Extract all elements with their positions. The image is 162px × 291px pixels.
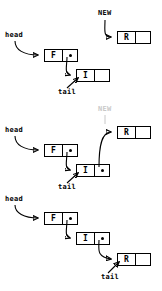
stage3-node-f: F bbox=[44, 212, 78, 225]
stage2-node-i-value: I bbox=[77, 165, 94, 176]
stage1-node-r: R bbox=[117, 31, 151, 44]
stage2-node-i-pointer-cell bbox=[94, 165, 109, 176]
stage1-node-i-pointer-cell bbox=[94, 70, 109, 81]
stage3-node-i: I bbox=[76, 232, 110, 245]
stage2-node-r: R bbox=[117, 126, 151, 139]
stage2-node-f-value: F bbox=[45, 145, 62, 156]
stage3-node-r-value: R bbox=[118, 254, 135, 265]
stage2-tail-label: tail bbox=[58, 184, 76, 191]
stage1-head-label: head bbox=[5, 32, 23, 39]
stage2-head-label: head bbox=[5, 127, 23, 134]
stage2-node-r-pointer-cell bbox=[135, 127, 150, 138]
stage2-node-i: I bbox=[76, 164, 110, 177]
stage2-new-label: NEW bbox=[98, 106, 112, 113]
stage1-node-r-value: R bbox=[118, 32, 135, 43]
stage3-node-i-pointer-cell bbox=[94, 233, 109, 244]
stage1-new-label: NEW bbox=[98, 10, 112, 17]
stage3-node-f-value: F bbox=[45, 213, 62, 224]
stage3-node-r: R bbox=[117, 253, 151, 266]
stage2-node-f-pointer-cell bbox=[62, 145, 77, 156]
stage2-node-r-value: R bbox=[118, 127, 135, 138]
stage3-node-i-value: I bbox=[77, 233, 94, 244]
stage1-node-f-value: F bbox=[45, 50, 62, 61]
stage3-node-r-pointer-cell bbox=[135, 254, 150, 265]
stage1-node-i: I bbox=[76, 69, 110, 82]
stage1-node-r-pointer-cell bbox=[135, 32, 150, 43]
stage1-node-f: F bbox=[44, 49, 78, 62]
stage1-node-f-pointer-cell bbox=[62, 50, 77, 61]
stage3-node-f-pointer-cell bbox=[62, 213, 77, 224]
stage1-node-i-value: I bbox=[77, 70, 94, 81]
stage3-head-label: head bbox=[5, 196, 23, 203]
stage2-node-f: F bbox=[44, 144, 78, 157]
stage3-tail-label: tail bbox=[101, 274, 119, 281]
stage1-tail-label: tail bbox=[58, 89, 76, 96]
